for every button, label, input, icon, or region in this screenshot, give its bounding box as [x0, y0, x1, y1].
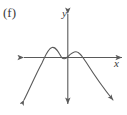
y-axis-label: y	[61, 7, 67, 19]
x-axis-label: x	[113, 57, 119, 69]
polynomial-graph: y x	[0, 0, 127, 115]
curve-path	[24, 47, 113, 100]
figure-container: (f) y x	[0, 0, 127, 115]
